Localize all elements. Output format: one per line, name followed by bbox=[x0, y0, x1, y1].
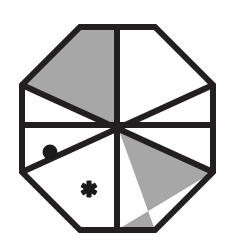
dot-icon bbox=[43, 145, 58, 160]
figure-root: Octagon divided into eight wedges bbox=[0, 0, 232, 243]
octagon-figure bbox=[0, 0, 232, 243]
